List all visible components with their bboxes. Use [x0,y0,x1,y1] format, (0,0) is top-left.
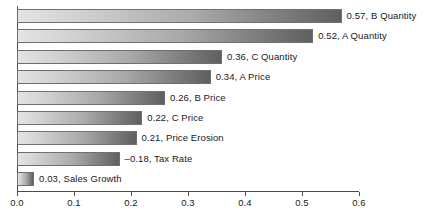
x-tick-label: 0.1 [54,197,94,208]
x-tick-label: 0.2 [111,197,151,208]
x-tick-label: 0.0 [0,197,37,208]
x-tick-mark [359,192,360,196]
x-tick-label: 0.5 [282,197,322,208]
x-axis-ticks: 0.00.10.20.30.40.50.6 [0,0,425,213]
x-tick-label: 0.3 [168,197,208,208]
x-tick-mark [17,192,18,196]
x-tick-mark [302,192,303,196]
tornado-bar-chart: 0.57, B Quantity0.52, A Quantity0.36, C … [0,0,425,213]
x-tick-mark [74,192,75,196]
x-tick-mark [131,192,132,196]
plot-area: 0.57, B Quantity0.52, A Quantity0.36, C … [0,0,425,213]
x-tick-mark [245,192,246,196]
x-tick-label: 0.6 [339,197,379,208]
x-tick-label: 0.4 [225,197,265,208]
x-tick-mark [188,192,189,196]
